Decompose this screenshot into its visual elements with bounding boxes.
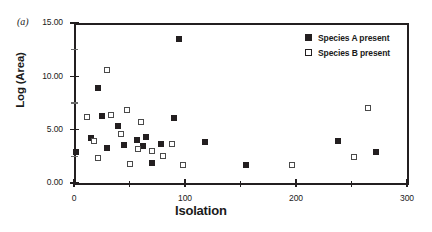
data-point xyxy=(104,67,110,73)
data-point xyxy=(365,105,371,111)
y-tick-label: 15.00 xyxy=(42,17,63,27)
data-point xyxy=(73,149,79,155)
x-tick-label: 100 xyxy=(178,193,192,203)
legend-item: Species A present xyxy=(305,30,390,45)
data-point xyxy=(169,141,175,147)
x-tick-label: 200 xyxy=(289,193,303,203)
x-tick-minor xyxy=(240,181,242,187)
data-point xyxy=(373,149,379,155)
x-tick xyxy=(295,179,297,187)
plot-border-top xyxy=(74,23,409,25)
x-tick xyxy=(73,179,75,187)
y-tick-minor xyxy=(71,102,78,103)
data-point xyxy=(135,146,141,152)
data-point xyxy=(351,154,357,160)
plot-border-right xyxy=(407,23,409,185)
y-tick: 10.00 xyxy=(70,76,79,78)
x-tick-minor xyxy=(351,181,353,187)
y-tick-label: 0.00 xyxy=(47,177,63,187)
x-tick xyxy=(406,179,408,187)
data-point xyxy=(180,162,186,168)
scatter-plot-figure: (a) Log (Area) Isolation 0.005.0010.0015… xyxy=(0,0,432,232)
data-point xyxy=(149,148,155,154)
data-point xyxy=(202,139,208,145)
y-tick-minor xyxy=(71,156,78,157)
data-point xyxy=(99,113,105,119)
y-tick-minor xyxy=(71,49,78,50)
y-tick-label: 10.00 xyxy=(42,71,63,81)
data-point xyxy=(243,162,249,168)
x-tick-label: 0 xyxy=(72,193,77,203)
y-tick: 5.00 xyxy=(70,129,79,131)
y-tick: 15.00 xyxy=(70,22,79,24)
legend-item: Species B present xyxy=(305,45,390,60)
data-point xyxy=(143,134,149,140)
x-axis-title: Isolation xyxy=(175,203,227,218)
data-point xyxy=(95,85,101,91)
data-point xyxy=(95,155,101,161)
filled-square-icon xyxy=(305,34,312,41)
data-point xyxy=(108,112,114,118)
data-point xyxy=(118,131,124,137)
data-point xyxy=(115,123,121,129)
data-point xyxy=(149,160,155,166)
data-point xyxy=(160,153,166,159)
x-axis-line xyxy=(74,183,409,185)
legend-label: Species A present xyxy=(318,33,389,43)
x-tick-label: 300 xyxy=(400,193,414,203)
data-point xyxy=(289,162,295,168)
data-point xyxy=(124,107,130,113)
data-point xyxy=(91,138,97,144)
open-square-icon xyxy=(305,49,312,56)
data-point xyxy=(121,142,127,148)
x-tick xyxy=(184,179,186,187)
y-axis-title: Log (Area) xyxy=(14,30,26,130)
data-point xyxy=(158,141,164,147)
data-point xyxy=(176,36,182,42)
x-tick-minor xyxy=(129,181,131,187)
data-point xyxy=(171,115,177,121)
data-point xyxy=(127,161,133,167)
y-tick-label: 5.00 xyxy=(47,124,63,134)
panel-label: (a) xyxy=(17,16,29,27)
data-point xyxy=(84,114,90,120)
legend-label: Species B present xyxy=(318,48,390,58)
legend: Species A presentSpecies B present xyxy=(305,30,390,60)
data-point xyxy=(104,145,110,151)
data-point xyxy=(335,138,341,144)
y-axis-line xyxy=(74,23,76,185)
data-point xyxy=(138,119,144,125)
